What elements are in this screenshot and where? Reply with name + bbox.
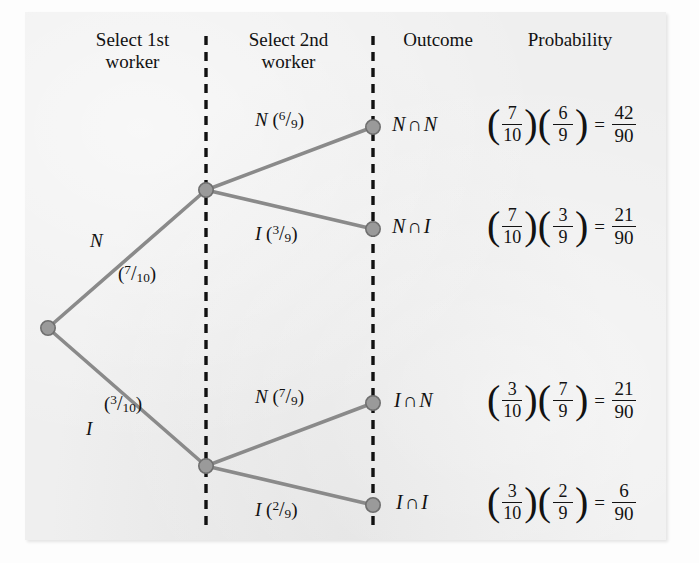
numerator: 6 — [619, 481, 629, 501]
header-line-1: Probability — [500, 29, 640, 51]
branch-label-n-event: N — [90, 230, 103, 252]
outcome-second: I — [421, 491, 428, 513]
fraction-1: 3 10 — [500, 380, 524, 421]
numerator: 42 — [615, 103, 634, 123]
result-fraction: 21 90 — [610, 379, 638, 422]
equals-sign: = — [588, 390, 610, 412]
header-line-2: worker — [60, 51, 205, 73]
numerator: 2 — [558, 482, 567, 501]
outcome-first: I — [394, 389, 401, 411]
outcome-first: I — [396, 491, 403, 513]
node-leaf-in — [366, 396, 380, 410]
header-line-1: Outcome — [383, 29, 493, 51]
branch-event: I — [255, 499, 261, 520]
outcome-first: N — [392, 215, 405, 237]
intersection-icon: ∩ — [401, 389, 419, 411]
denominator: 10 — [503, 228, 521, 247]
branch-label-i-event: I — [86, 418, 92, 440]
intersection-icon: ∩ — [403, 491, 421, 513]
denominator: 90 — [615, 504, 634, 524]
header-select-2nd-worker: Select 2nd worker — [216, 29, 361, 74]
probability-expression-ni: ( 7 10 ) ( 3 9 ) = 21 90 — [487, 205, 638, 248]
denominator: 9 — [558, 228, 567, 247]
branch-label-i-probability: (3/10) — [104, 392, 142, 415]
branch-line-n — [48, 190, 206, 328]
outcome-first: N — [392, 113, 405, 135]
numerator: 7 — [558, 380, 567, 399]
branch-label-n-i: I (3/9) — [255, 222, 298, 245]
result-fraction: 42 90 — [610, 103, 638, 146]
close-paren: ) — [298, 386, 304, 407]
branch-label-n-n: N (6/9) — [255, 108, 304, 131]
node-lvl1-i — [199, 459, 213, 473]
numerator: 3 — [508, 380, 517, 399]
tree-graphic — [0, 0, 699, 563]
fraction-1: 7 10 — [500, 206, 524, 247]
node-lvl1-n — [199, 183, 213, 197]
probability-expression-nn: ( 7 10 ) ( 6 9 ) = 42 90 — [487, 103, 638, 146]
close-paren: ) — [298, 109, 304, 130]
outcome-label-ii: I∩I — [396, 491, 428, 514]
numerator: 3 — [508, 482, 517, 501]
outcome-label-in: I∩N — [394, 389, 432, 412]
numerator: 6 — [558, 104, 567, 123]
branch-prob-num: 3 — [110, 392, 117, 407]
branch-prob-den: 9 — [291, 116, 298, 131]
denominator: 10 — [503, 504, 521, 523]
probability-expression-in: ( 3 10 ) ( 7 9 ) = 21 90 — [487, 379, 638, 422]
header-outcome: Outcome — [383, 29, 493, 51]
branch-prob-den: 10 — [123, 400, 136, 415]
branch-label-n-probability: (7/10) — [118, 262, 156, 285]
numerator: 21 — [615, 205, 634, 225]
branch-line-i-n — [206, 403, 373, 466]
node-leaf-ii — [366, 498, 380, 512]
branch-label-i-n: N (7/9) — [255, 385, 304, 408]
fraction-2: 3 9 — [551, 206, 575, 247]
intersection-icon: ∩ — [405, 215, 423, 237]
scanned-page: Problem: Note has hired ten new employee… — [0, 0, 699, 563]
equals-sign: = — [588, 492, 610, 514]
fraction-1: 3 10 — [500, 482, 524, 523]
branch-line-n-n — [206, 127, 373, 190]
branch-label-i-i: I (2/9) — [255, 498, 298, 521]
denominator: 90 — [615, 126, 634, 146]
branch-prob-den: 9 — [291, 393, 298, 408]
denominator: 90 — [615, 402, 634, 422]
fraction-2: 7 9 — [551, 380, 575, 421]
denominator: 9 — [558, 402, 567, 421]
outcome-second: I — [424, 215, 431, 237]
fraction-2: 2 9 — [551, 482, 575, 523]
branch-event-n: N — [90, 230, 103, 251]
denominator: 10 — [503, 126, 521, 145]
denominator: 9 — [558, 504, 567, 523]
outcome-second: N — [424, 113, 437, 135]
branch-event: I — [255, 223, 261, 244]
header-probability: Probability — [500, 29, 640, 51]
header-line-1: Select 1st — [60, 29, 205, 51]
branch-event: N — [255, 386, 268, 407]
numerator: 7 — [508, 104, 517, 123]
numerator: 3 — [558, 206, 567, 225]
result-fraction: 21 90 — [610, 205, 638, 248]
outcome-label-nn: N∩N — [392, 113, 437, 136]
close-paren: ) — [291, 223, 297, 244]
fraction-2: 6 9 — [551, 104, 575, 145]
equals-sign: = — [588, 216, 610, 238]
denominator: 90 — [615, 228, 634, 248]
probability-expression-ii: ( 3 10 ) ( 2 9 ) = 6 90 — [487, 481, 638, 524]
fraction-1: 7 10 — [500, 104, 524, 145]
denominator: 9 — [558, 126, 567, 145]
outcome-label-ni: N∩I — [392, 215, 430, 238]
header-line-2: worker — [216, 51, 361, 73]
branch-prob-num: 7 — [124, 262, 131, 277]
branch-event: N — [255, 109, 268, 130]
close-paren: ) — [150, 263, 156, 284]
intersection-icon: ∩ — [405, 113, 423, 135]
node-root — [41, 321, 55, 335]
denominator: 10 — [503, 402, 521, 421]
node-leaf-ni — [366, 222, 380, 236]
outcome-second: N — [419, 389, 432, 411]
result-fraction: 6 90 — [610, 481, 638, 524]
node-leaf-nn — [366, 120, 380, 134]
numerator: 7 — [508, 206, 517, 225]
